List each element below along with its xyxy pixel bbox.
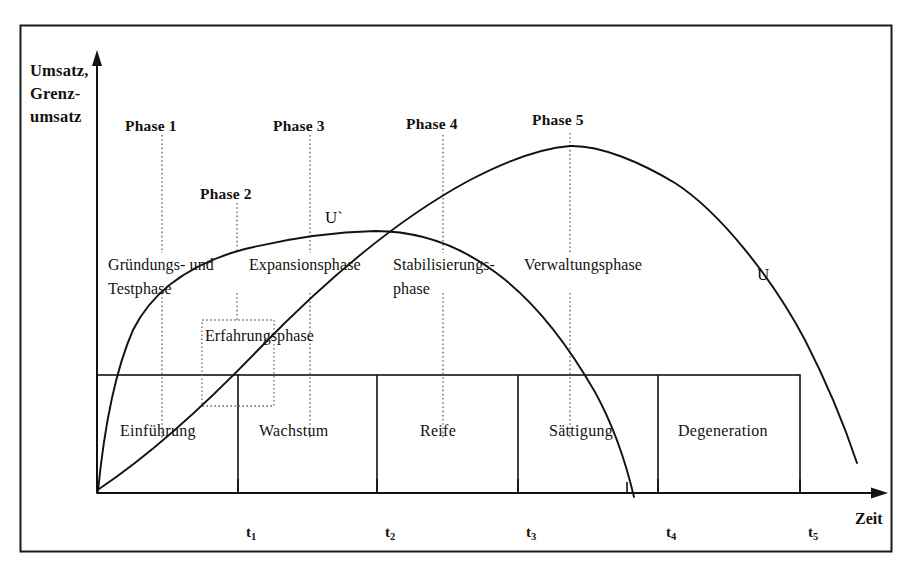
box-label-reife: Reife [420,422,456,440]
tick-label-t5-sub: 5 [813,531,818,542]
curve-label-u: U [757,265,769,284]
y-axis-arrowhead [92,50,102,66]
curve-label-u-prime: U` [325,208,343,227]
tick-label-t4: t4 [651,507,676,558]
tick-label-t2: t2 [370,507,395,558]
region-label-expansionsphase: Expansionsphase [249,256,361,274]
tick-label-t3: t3 [511,507,536,558]
product-life-cycle-figure: Umsatz, Grenz- umsatz Zeit Phase 1 Phase… [0,0,909,573]
tick-label-t2-sub: 2 [390,531,395,542]
y-axis-title-line-2: Grenz- [30,85,80,104]
region-label-verwaltungsphase: Verwaltungsphase [524,256,642,274]
region-label-stabilisierungs-line-1: Stabilisierungs- [393,256,495,274]
region-label-stabilisierungs-line-2: phase [393,280,430,298]
phase-tag-4: Phase 4 [406,115,458,133]
region-label-erfahrungsphase: Erfahrungsphase [205,327,314,345]
tick-label-t1-sub: 1 [251,531,256,542]
box-label-wachstum: Wachstum [259,422,329,440]
x-axis-arrowhead [871,488,888,499]
phase-tag-2: Phase 2 [200,185,252,203]
y-axis-title-line-3: umsatz [30,108,82,127]
tick-label-t1: t1 [231,507,256,558]
tick-label-t5: t5 [793,507,818,558]
tick-label-t3-sub: 3 [531,531,536,542]
box-label-degeneration: Degeneration [678,422,768,440]
phase-tag-5: Phase 5 [532,111,584,129]
phase-tag-1: Phase 1 [125,117,177,135]
region-label-gruendungs-line-2: Testphase [108,280,172,298]
x-axis-ticks [238,479,800,493]
tick-label-t4-sub: 4 [671,531,676,542]
phase-tag-3: Phase 3 [273,117,325,135]
y-axis-title-line-1: Umsatz, [30,62,89,81]
region-label-gruendungs-line-1: Gründungs- und [108,256,214,274]
box-label-einfuehrung: Einführung [120,422,196,440]
x-axis-title: Zeit [855,510,883,528]
box-label-saettigung: Sättigung [549,422,613,440]
phase-marker-lines [162,133,570,440]
